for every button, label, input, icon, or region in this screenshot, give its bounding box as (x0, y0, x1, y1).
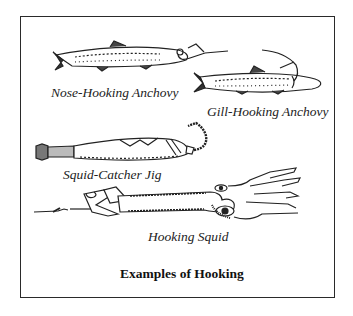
label-nose-hooking-anchovy: Nose-Hooking Anchovy (51, 85, 179, 101)
figure-title: Examples of Hooking (120, 266, 244, 282)
nose-hooked-anchovy-icon (53, 41, 228, 71)
label-gill-hooking-anchovy: Gill-Hooking Anchovy (207, 104, 329, 120)
label-hooking-squid: Hooking Squid (148, 229, 229, 245)
gill-hooked-anchovy-icon (194, 50, 321, 94)
squid-jig-icon (36, 123, 206, 160)
label-squid-catcher-jig: Squid-Catcher Jig (63, 167, 162, 183)
